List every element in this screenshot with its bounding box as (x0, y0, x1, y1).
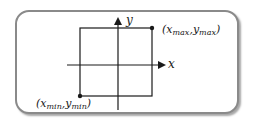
window-rectangle (80, 28, 152, 96)
x-min-subscript: min (47, 102, 62, 111)
min-point-label: (xmin,ymin) (36, 98, 91, 111)
y-max-subscript: max (199, 28, 216, 37)
y-min-subscript: min (72, 102, 87, 111)
paren-close: ) (87, 97, 91, 110)
x-axis-label: x (168, 58, 175, 70)
paren-close: ) (216, 23, 220, 36)
y-axis-label: y (126, 14, 133, 26)
max-point-dot (150, 26, 154, 30)
x-max-subscript: max (173, 28, 190, 37)
max-point-label: (xmax,ymax) (162, 24, 220, 37)
